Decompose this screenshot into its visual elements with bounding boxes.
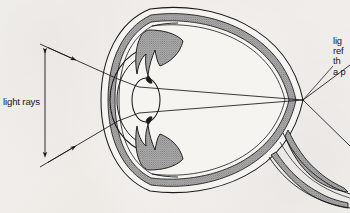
light-rays-label: light rays xyxy=(3,97,40,107)
retina-note-line-4: a p xyxy=(333,67,350,77)
eye-cross-section-drawing xyxy=(0,0,350,213)
eye-diagram-figure: light rays lig ref th a p xyxy=(0,0,350,213)
focal-point-marker xyxy=(302,99,304,101)
retina-note-label: lig ref th a p xyxy=(333,36,350,77)
retina-note-leader-line xyxy=(303,66,333,100)
